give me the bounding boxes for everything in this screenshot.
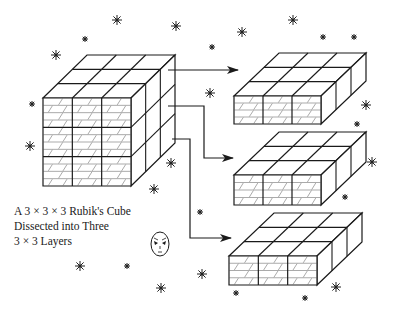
rubiks-cube-diagram [0, 0, 399, 312]
star-icon [171, 21, 181, 31]
star-icon [237, 27, 247, 37]
star-icon [124, 263, 130, 269]
caption-line-1: A 3 × 3 × 3 Rubik's Cube [14, 204, 131, 219]
caption-line-2: Dissected into Three [14, 219, 131, 234]
star-icon [197, 209, 203, 215]
star-icon [166, 158, 176, 168]
star-icon [354, 121, 360, 127]
star-icon [29, 101, 35, 107]
star-icon [351, 34, 357, 40]
star-icon [112, 15, 122, 25]
star-icon [82, 36, 88, 42]
arrows [168, 70, 238, 238]
star-icon [209, 44, 215, 50]
star-icon [205, 88, 215, 98]
star-icon [156, 283, 166, 293]
figure-caption: A 3 × 3 × 3 Rubik's Cube Dissected into … [14, 204, 131, 249]
star-icon [149, 184, 159, 194]
main-cube [43, 55, 175, 186]
star-icon [75, 261, 85, 271]
star-icon [288, 15, 298, 25]
caption-line-3: 3 × 3 Layers [14, 234, 131, 249]
arrow-to-middle-layer [168, 106, 233, 158]
star-icon [342, 194, 348, 200]
arrow-to-bottom-layer [172, 139, 231, 238]
star-icon [197, 269, 207, 279]
star-icon [367, 157, 377, 167]
middle-layer [234, 132, 366, 205]
star-icon [233, 290, 239, 296]
top-layer [234, 53, 366, 124]
star-icon [302, 295, 308, 301]
star-icon [51, 50, 61, 60]
star-icon [320, 34, 326, 40]
star-icon [361, 100, 371, 110]
bottom-layer [229, 213, 362, 285]
star-icon [331, 282, 341, 292]
star-icon [25, 141, 35, 151]
alien-face-icon [151, 232, 169, 256]
